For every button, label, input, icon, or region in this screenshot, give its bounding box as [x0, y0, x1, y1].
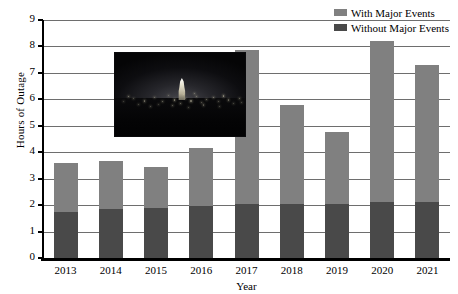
bar-2013[interactable]	[54, 163, 78, 258]
y-axis-tick-label: 5	[15, 118, 35, 130]
y-axis-tick-label: 3	[15, 171, 35, 183]
y-axis-tick-label: 6	[15, 91, 35, 103]
bar-2014[interactable]	[99, 161, 123, 258]
x-axis-label-2015: 2015	[136, 264, 176, 276]
bar-2015[interactable]	[144, 167, 168, 258]
legend-label-with-major-events: With Major Events	[351, 7, 435, 19]
y-axis-line	[42, 20, 44, 258]
city-light	[183, 94, 184, 95]
bar-segment-with-major-events[interactable]	[189, 148, 213, 206]
bar-segment-without-major-events[interactable]	[144, 208, 168, 258]
bar-2016[interactable]	[189, 148, 213, 258]
x-axis-label-2014: 2014	[91, 264, 131, 276]
y-axis-tick-label: 8	[15, 38, 35, 50]
plot-area: 0123456789 20132014201520162017201820192…	[43, 20, 450, 258]
bar-segment-without-major-events[interactable]	[189, 206, 213, 258]
legend-swatch-without-major-events	[334, 24, 347, 31]
city-light	[213, 97, 214, 98]
city-light	[188, 107, 189, 108]
bar-segment-without-major-events[interactable]	[280, 204, 304, 258]
bar-2019[interactable]	[325, 132, 349, 258]
y-axis-tick-label: 4	[15, 144, 35, 156]
legend-swatch-with-major-events	[334, 9, 347, 16]
bar-segment-with-major-events[interactable]	[370, 41, 394, 202]
bar-2018[interactable]	[280, 105, 304, 258]
legend-label-without-major-events: Without Major Events	[351, 22, 449, 34]
bar-segment-without-major-events[interactable]	[235, 204, 259, 258]
city-light	[174, 99, 175, 100]
city-light	[239, 98, 240, 99]
y-axis-title: Hours of Outage	[14, 40, 26, 180]
y-axis-tick-label: 7	[15, 65, 35, 77]
bar-segment-with-major-events[interactable]	[325, 132, 349, 203]
city-light	[154, 97, 155, 98]
y-axis-tick-label: 1	[15, 224, 35, 236]
bar-segment-with-major-events[interactable]	[99, 161, 123, 209]
x-axis-label-2018: 2018	[272, 264, 312, 276]
bar-segment-without-major-events[interactable]	[415, 202, 439, 258]
x-axis-title: Year	[43, 280, 450, 292]
bar-segment-with-major-events[interactable]	[280, 105, 304, 204]
y-axis-tick-label: 2	[15, 197, 35, 209]
y-axis-tick-label: 9	[15, 12, 35, 24]
legend-item-without-major-events: Without Major Events	[334, 21, 449, 34]
bar-segment-with-major-events[interactable]	[415, 65, 439, 203]
bar-segment-with-major-events[interactable]	[144, 167, 168, 208]
bar-2021[interactable]	[415, 65, 439, 258]
x-axis-label-2020: 2020	[362, 264, 402, 276]
city-light	[201, 102, 202, 103]
bar-segment-without-major-events[interactable]	[54, 212, 78, 258]
x-axis-label-2017: 2017	[227, 264, 267, 276]
outage-hours-stacked-bar-chart: Hours of Outage 0123456789 2013201420152…	[0, 0, 458, 294]
city-light	[218, 101, 219, 102]
city-light	[190, 100, 191, 101]
x-axis-label-2016: 2016	[181, 264, 221, 276]
bar-2020[interactable]	[370, 41, 394, 258]
night-cityscape-photo	[114, 52, 246, 137]
x-axis-label-2013: 2013	[46, 264, 86, 276]
bar-segment-without-major-events[interactable]	[99, 209, 123, 258]
x-axis-line	[41, 258, 450, 261]
bar-segment-without-major-events[interactable]	[325, 204, 349, 258]
legend-item-with-major-events: With Major Events	[334, 6, 449, 19]
city-light	[144, 100, 145, 101]
legend: With Major Events Without Major Events	[334, 6, 449, 34]
city-light	[158, 104, 159, 105]
bar-segment-without-major-events[interactable]	[370, 202, 394, 258]
x-axis-label-2021: 2021	[407, 264, 447, 276]
y-axis-tick-label: 0	[15, 250, 35, 262]
city-light	[123, 101, 124, 102]
x-axis-label-2019: 2019	[317, 264, 357, 276]
bar-segment-with-major-events[interactable]	[54, 163, 78, 212]
